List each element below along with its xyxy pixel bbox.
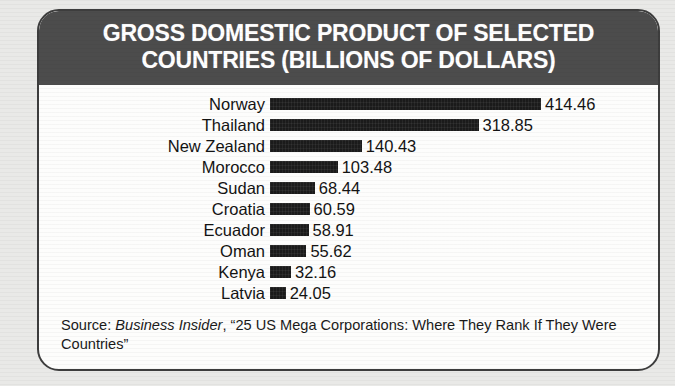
bar-category-label: Norway [39, 96, 270, 113]
bar-category-label: Ecuador [39, 222, 270, 239]
bar-track: 68.44 [270, 180, 658, 197]
bar-fill [270, 98, 541, 110]
bar-value-label: 55.62 [306, 243, 351, 260]
bar-row: Latvia24.05 [39, 283, 658, 304]
bar-value-label: 414.46 [541, 96, 595, 113]
bar-fill [270, 119, 479, 131]
bar-row: Kenya32.16 [39, 262, 658, 283]
bar-track: 103.48 [270, 159, 658, 176]
chart-header-band: GROSS DOMESTIC PRODUCT OF SELECTED COUNT… [39, 11, 658, 85]
bar-fill [270, 287, 286, 299]
source-prefix: Source: [61, 317, 115, 333]
bar-category-label: Kenya [39, 264, 270, 281]
bar-track: 140.43 [270, 138, 658, 155]
bar-value-label: 103.48 [338, 159, 392, 176]
bar-track: 32.16 [270, 264, 658, 281]
bar-value-label: 318.85 [479, 117, 533, 134]
bar-track: 24.05 [270, 285, 658, 302]
chart-card: GROSS DOMESTIC PRODUCT OF SELECTED COUNT… [37, 9, 660, 371]
bar-fill [270, 224, 309, 236]
bar-category-label: Morocco [39, 159, 270, 176]
bar-fill [270, 161, 338, 173]
bar-row: Sudan68.44 [39, 178, 658, 199]
bar-value-label: 58.91 [309, 222, 354, 239]
bar-fill [270, 203, 310, 215]
bar-value-label: 32.16 [291, 264, 336, 281]
bar-track: 318.85 [270, 117, 658, 134]
source-note: Source: Business Insider, “25 US Mega Co… [39, 304, 658, 355]
bar-track: 55.62 [270, 243, 658, 260]
bar-category-label: Thailand [39, 117, 270, 134]
chart-title: GROSS DOMESTIC PRODUCT OF SELECTED COUNT… [67, 20, 630, 74]
bar-category-label: Oman [39, 243, 270, 260]
bar-category-label: New Zealand [39, 138, 270, 155]
bar-category-label: Sudan [39, 180, 270, 197]
bar-fill [270, 140, 362, 152]
bar-row: Oman55.62 [39, 241, 658, 262]
source-publication: Business Insider [115, 317, 222, 333]
bar-fill [270, 245, 306, 257]
bar-track: 414.46 [270, 96, 658, 113]
bar-row: Norway414.46 [39, 94, 658, 115]
bar-value-label: 140.43 [362, 138, 416, 155]
bar-track: 60.59 [270, 201, 658, 218]
bar-row: New Zealand140.43 [39, 136, 658, 157]
bar-value-label: 24.05 [286, 285, 331, 302]
bar-category-label: Latvia [39, 285, 270, 302]
bar-chart: Norway414.46Thailand318.85New Zealand140… [39, 85, 658, 304]
bar-row: Ecuador58.91 [39, 220, 658, 241]
bar-value-label: 60.59 [310, 201, 355, 218]
bar-value-label: 68.44 [315, 180, 360, 197]
bar-row: Morocco103.48 [39, 157, 658, 178]
bar-category-label: Croatia [39, 201, 270, 218]
bar-row: Croatia60.59 [39, 199, 658, 220]
bar-fill [270, 266, 291, 278]
bar-row: Thailand318.85 [39, 115, 658, 136]
bar-track: 58.91 [270, 222, 658, 239]
bar-fill [270, 182, 315, 194]
